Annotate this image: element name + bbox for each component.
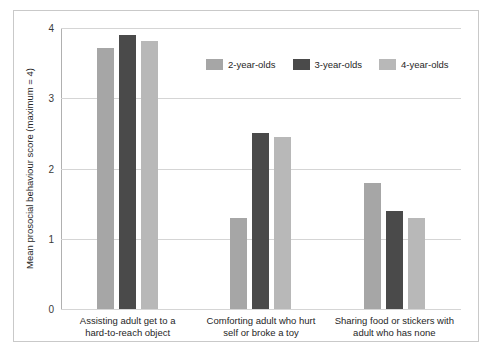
y-tick-label: 2 xyxy=(48,163,54,174)
x-axis-category-label: Assisting adult get to a hard-to-reach o… xyxy=(61,315,194,338)
x-axis-category-label: Comforting adult who hurt self or broke … xyxy=(194,315,327,338)
plot-area: 01234 Assisting adult get to a hard-to-r… xyxy=(61,28,461,309)
y-tick-label: 1 xyxy=(48,233,54,244)
bar-group: Sharing food or stickers with adult who … xyxy=(328,28,461,309)
y-tick-label: 0 xyxy=(48,304,54,315)
bar[interactable] xyxy=(364,183,381,309)
gridline xyxy=(61,309,461,310)
bar[interactable] xyxy=(230,218,247,309)
bar-group: Comforting adult who hurt self or broke … xyxy=(194,28,327,309)
y-tick-label: 3 xyxy=(48,93,54,104)
bar[interactable] xyxy=(119,35,136,309)
y-axis-title: Mean prosocial behaviour score (maximum … xyxy=(23,28,37,309)
bar[interactable] xyxy=(252,133,269,309)
bar[interactable] xyxy=(141,41,158,309)
bar[interactable] xyxy=(97,48,114,309)
bar-group: Assisting adult get to a hard-to-reach o… xyxy=(61,28,194,309)
bar[interactable] xyxy=(408,218,425,309)
bar[interactable] xyxy=(274,137,291,309)
bar[interactable] xyxy=(386,211,403,309)
chart-figure: Mean prosocial behaviour score (maximum … xyxy=(13,10,479,342)
y-tick-label: 4 xyxy=(48,23,54,34)
x-axis-category-label: Sharing food or stickers with adult who … xyxy=(328,315,461,338)
